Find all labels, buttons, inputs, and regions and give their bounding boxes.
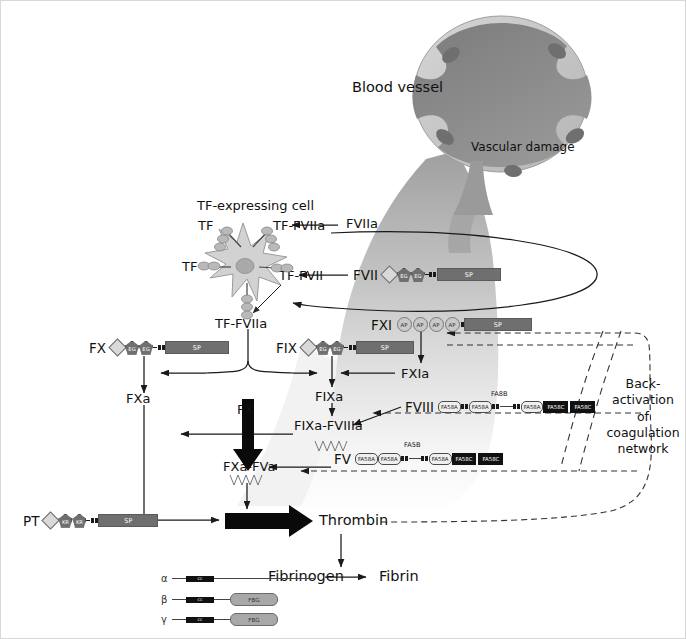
egf-domain-icon: EG [125,341,139,355]
back-activation-label: Back- activation of coagulation network [605,376,681,457]
protein-name-fix: FIX [276,340,297,356]
fa58a-domain: FA58A [429,453,452,465]
fa58c-label: FA58C [547,404,564,410]
node-fixa-fviiia: FIXa-FVIIIa [294,419,363,432]
chain-line [214,619,230,620]
fa58c-domain: FA58C [543,401,568,413]
chain-line [214,599,230,600]
node-fxia: FXIa [401,367,429,380]
coiled-coil-domain: cc [186,576,214,582]
node-fx-thick-label: FX [237,403,253,416]
sp-domain: SP [464,318,532,331]
linker-knob [425,456,428,461]
apple-domain-icon: AP [413,317,428,332]
sp-domain: SP [98,514,158,527]
kr-label: KR [76,518,83,524]
protein-name-fvii: FVII [353,267,378,283]
fbg-domain: FBG [230,613,278,626]
chain-label-gamma: γ [161,614,169,625]
linker-knob [421,456,424,461]
sp-label: SP [124,517,133,525]
protein-row-fxi: FXI AP AP AP AP SP [371,317,532,332]
node-tf-fviia-cell: TF-FVIIa [273,219,325,232]
back-activation-line-3: coagulation [605,425,681,441]
node-tf-fvii-cell: TF-FVII [279,269,323,282]
vascular-damage-label: Vascular damage [471,141,541,155]
fviii-connector-label: FA8B [491,391,507,398]
protein-name-fx: FX [89,340,106,356]
node-fxa-fva: FXa-FVa [223,460,275,473]
linker-knob [91,518,94,523]
fbg-label: FBG [248,597,259,603]
egf-label: EG [128,345,135,351]
fibrinogen-chain-beta: β cc FBG [161,592,278,607]
gla-domain-icon [299,338,317,356]
coiled-coil-domain: cc [186,617,214,623]
kr-label: KR [62,518,69,524]
fa58c-label: FA58C [482,456,499,462]
linker-knob [513,404,516,409]
egf-label: EG [142,345,149,351]
fa58a-domain: FA58A [438,401,461,413]
fa58a-label: FA58A [472,404,489,410]
linker-bar [344,347,348,348]
egf-domain-icon: EG [330,341,344,355]
egf-label: EG [333,345,340,351]
ap-label: AP [449,322,456,328]
fa58c-domain: FA58C [478,453,503,465]
ap-label: AP [401,322,408,328]
fa58c-domain: FA58C [570,401,595,413]
fa58c-domain: FA58C [452,453,477,465]
fibrinogen-chain-gamma: γ cc FBG [161,612,278,627]
fa58a-domain: FA58A [355,453,378,465]
fbg-domain: FBG [230,593,278,606]
node-thrombin: Thrombin [319,513,388,528]
sp-label: SP [465,271,474,279]
protein-row-fv: FV FA58A FA58A FA58A FA58C FA58C [334,451,503,466]
apple-domain-icon: AP [397,317,412,332]
fa58a-label: FA58A [358,456,375,462]
sp-label: SP [494,321,503,329]
coagulation-cascade-figure: Blood vessel Vascular damage TF-expressi… [0,0,686,639]
apple-domain-icon: AP [445,317,460,332]
gla-domain-icon [42,511,60,529]
linker-knob [461,404,464,409]
protein-row-fvii: FVII EG EG SP [353,267,501,282]
b-domain-line [409,458,421,459]
linker-bar [425,274,429,275]
chain-line [214,578,314,579]
cc-label: cc [197,617,202,622]
chain-line [172,578,186,579]
node-tf-fviia-main: TF-FVIIa [215,317,267,330]
cc-label: cc [197,597,202,602]
coiled-coil-domain: cc [186,597,214,603]
linker-knob [349,345,352,350]
sp-domain: SP [437,268,501,281]
egf-label: EG [319,345,326,351]
protein-row-fviii: FVIII FA58A FA58A FA58A FA58C FA58C [405,399,595,414]
blood-vessel-label: Blood vessel [352,80,443,95]
protein-name-fv: FV [334,451,351,467]
egf-domain-icon: EG [397,268,411,282]
linker-knob [517,404,520,409]
fa58c-label: FA58C [574,404,591,410]
protein-row-fix: FIX EG EG SP [276,340,414,355]
protein-name-fviii: FVIII [405,399,434,415]
back-activation-line-4: network [605,441,681,457]
back-activation-line-0: Back- [605,376,681,392]
kringle-domain-icon: KR [58,514,72,528]
diagram-canvas [1,1,686,639]
ap-label: AP [417,322,424,328]
sp-label: SP [381,344,390,352]
sp-domain: SP [165,341,229,354]
kringle-domain-icon: KR [72,514,86,528]
node-fxa: FXa [126,392,150,405]
gla-domain-icon [380,265,398,283]
chain-label-alpha: α [161,573,169,584]
gla-domain-icon [108,338,126,356]
linker-knob [465,404,468,409]
linker-knob [158,345,161,350]
node-tf-upper-left: TF [198,219,213,232]
back-activation-line-1: activation [605,392,681,408]
egf-label: EG [400,272,407,278]
